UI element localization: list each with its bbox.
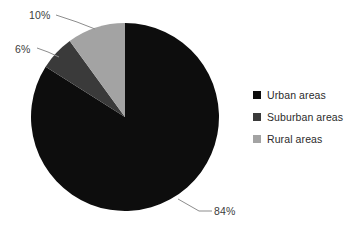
legend-swatch-icon-rural-areas bbox=[253, 135, 261, 143]
leader-line-urban bbox=[178, 199, 212, 211]
chart-legend: Urban areas Suburban areas Rural areas bbox=[253, 89, 343, 145]
legend-item-urban-areas[interactable]: Urban areas bbox=[253, 89, 343, 101]
pie-label-rural-percent: 10% bbox=[29, 9, 50, 21]
legend-item-rural-areas[interactable]: Rural areas bbox=[253, 133, 343, 145]
pie-slices-group bbox=[31, 23, 219, 211]
legend-label-rural-areas: Rural areas bbox=[267, 133, 322, 145]
pie-label-urban-percent: 84% bbox=[214, 205, 235, 217]
pie-chart-figure: 10% 6% 84% Urban areas Suburban areas Ru… bbox=[0, 0, 361, 231]
legend-item-suburban-areas[interactable]: Suburban areas bbox=[253, 111, 343, 123]
leader-line-rural bbox=[56, 15, 95, 29]
pie-label-suburban-percent: 6% bbox=[15, 43, 30, 55]
leader-line-suburban bbox=[37, 48, 59, 57]
legend-swatch-icon-suburban-areas bbox=[253, 113, 261, 121]
legend-swatch-icon-urban-areas bbox=[253, 91, 261, 99]
legend-label-urban-areas: Urban areas bbox=[267, 89, 326, 101]
legend-label-suburban-areas: Suburban areas bbox=[267, 111, 343, 123]
